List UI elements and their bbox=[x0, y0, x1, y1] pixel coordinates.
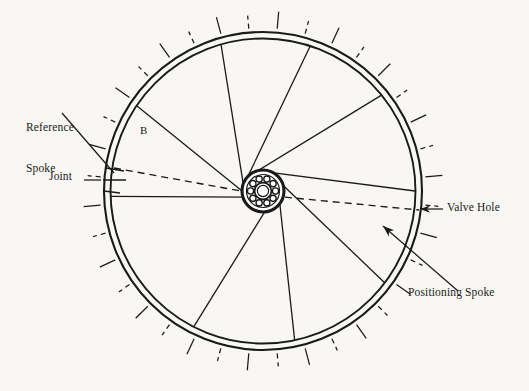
rim-tick-mark bbox=[411, 260, 423, 265]
dashed-line-right-segment bbox=[273, 196, 419, 210]
rim-tick-mark bbox=[425, 205, 438, 206]
rim-tick-mark bbox=[187, 339, 194, 354]
hub-spoke-hole bbox=[264, 200, 270, 206]
positioning-spoke-label: Positioning Spoke bbox=[408, 286, 495, 300]
rim-tick-mark bbox=[139, 67, 148, 76]
hub-spoke-hole bbox=[270, 181, 276, 187]
hub-spoke-hole bbox=[256, 176, 262, 182]
rim-tick-mark bbox=[420, 233, 436, 237]
spoke-line bbox=[221, 45, 243, 186]
valve-hole-label: Valve Hole bbox=[447, 201, 500, 215]
dashed-line-left-segment bbox=[114, 168, 252, 193]
rim-tick-mark bbox=[332, 28, 339, 43]
rim-tick-mark bbox=[247, 353, 248, 370]
rim-tick-mark bbox=[160, 44, 170, 58]
rim-tick-mark bbox=[119, 284, 130, 291]
rim-tick-mark bbox=[356, 47, 363, 58]
hub-spoke-hole bbox=[272, 188, 278, 194]
rim-tick-mark bbox=[420, 145, 433, 148]
joint-marker-group bbox=[103, 168, 126, 193]
wheel-diagram-figure: Reference Spoke Joint B Valve Hole Posit… bbox=[0, 0, 529, 391]
hub-bore-inner bbox=[257, 185, 268, 196]
hub-spoke-hole bbox=[264, 176, 270, 182]
rim-tick-mark bbox=[277, 353, 278, 366]
spoke-line bbox=[137, 106, 243, 192]
rim-tick-mark bbox=[216, 17, 220, 33]
reference-spoke-label-line1: Reference bbox=[26, 121, 74, 135]
rim-tick-mark bbox=[378, 306, 387, 315]
b-point-label: B bbox=[140, 124, 148, 137]
rim-tick-mark bbox=[411, 115, 426, 122]
rim-tick-mark bbox=[248, 16, 249, 29]
rim-tick-mark bbox=[189, 31, 194, 43]
rim-tick-mark bbox=[162, 325, 169, 336]
spoke-line bbox=[111, 196, 244, 197]
wheel-diagram-canvas bbox=[0, 0, 529, 391]
rim-tick-mark bbox=[93, 233, 106, 236]
spoke-line bbox=[246, 46, 310, 181]
rim-tick-mark bbox=[378, 64, 390, 76]
hub-spoke-hole bbox=[250, 181, 256, 187]
rim-tick-mark bbox=[332, 339, 337, 351]
rim-tick-mark bbox=[103, 117, 115, 122]
rim-tick-mark bbox=[425, 175, 442, 176]
rim-tick-mark bbox=[116, 88, 130, 98]
reference-spoke-label: Reference Spoke bbox=[26, 94, 74, 203]
rim-tick-mark bbox=[356, 325, 366, 339]
hub-group bbox=[242, 170, 284, 212]
rim-tick-mark bbox=[277, 12, 278, 29]
hub-spoke-hole bbox=[247, 188, 253, 194]
rim-tick-mark bbox=[397, 90, 408, 97]
rim-tick-mark bbox=[305, 21, 308, 34]
rim-tick-mark bbox=[100, 260, 115, 267]
rim-tick-mark bbox=[88, 176, 101, 177]
joint-lower-tick bbox=[104, 191, 120, 193]
hub-spoke-hole bbox=[270, 195, 276, 201]
rim-tick-mark bbox=[84, 205, 101, 206]
spoke-line bbox=[252, 95, 382, 174]
hub-spoke-hole bbox=[250, 195, 256, 201]
hub-spoke-hole bbox=[256, 200, 262, 206]
rim-tick-mark bbox=[217, 348, 220, 361]
rim-tick-mark bbox=[136, 306, 148, 318]
joint-label: Joint bbox=[49, 170, 72, 184]
rim-tick-mark bbox=[305, 348, 309, 364]
